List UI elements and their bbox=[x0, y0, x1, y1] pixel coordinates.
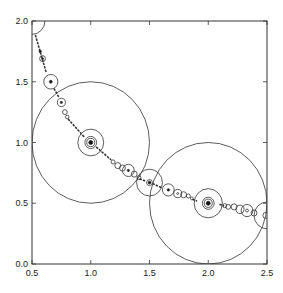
x-tick-label: 2.5 bbox=[261, 268, 274, 278]
circle-packing-chart: 0.51.01.52.02.50.00.51.01.52.0 bbox=[0, 0, 283, 293]
axes: 0.51.01.52.02.50.00.51.01.52.0 bbox=[15, 16, 273, 278]
circle-marker bbox=[39, 50, 41, 52]
circle-marker bbox=[60, 101, 62, 103]
y-tick-label: 1.5 bbox=[15, 77, 28, 87]
y-tick-label: 0.0 bbox=[15, 259, 28, 269]
dotted-chain bbox=[140, 179, 146, 181]
y-tick-label: 2.0 bbox=[15, 16, 28, 26]
circle-marker bbox=[89, 140, 93, 144]
circle-marker bbox=[206, 201, 210, 205]
plot-area bbox=[19, 8, 280, 264]
circle-marker bbox=[148, 181, 151, 184]
circle-marker bbox=[186, 194, 190, 198]
circle-marker bbox=[111, 160, 115, 164]
dotted-chain bbox=[36, 36, 47, 72]
circle-marker bbox=[167, 189, 169, 191]
y-tick-label: 0.5 bbox=[15, 198, 28, 208]
circle-marker bbox=[63, 110, 68, 115]
dotted-chain bbox=[153, 184, 161, 188]
dotted-chain bbox=[68, 119, 84, 137]
circle-marker bbox=[49, 80, 52, 83]
circle-marker bbox=[246, 209, 249, 212]
x-tick-label: 0.5 bbox=[26, 268, 39, 278]
circle-marker bbox=[190, 197, 193, 200]
circle-marker bbox=[65, 115, 69, 119]
x-tick-label: 2.0 bbox=[202, 268, 215, 278]
x-tick-label: 1.5 bbox=[143, 268, 156, 278]
circle-marker bbox=[42, 58, 44, 60]
x-tick-label: 1.0 bbox=[84, 268, 97, 278]
y-tick-label: 1.0 bbox=[15, 138, 28, 148]
circle-marker bbox=[127, 169, 129, 171]
circle-marker bbox=[177, 193, 179, 195]
